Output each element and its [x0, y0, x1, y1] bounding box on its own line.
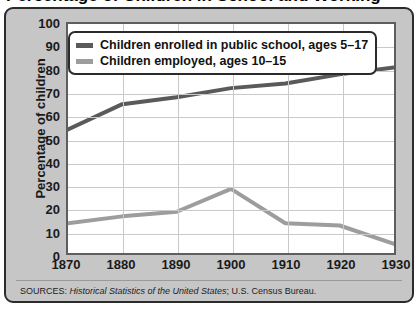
y-axis-tick: 70	[28, 87, 60, 100]
y-axis-tick: 10	[28, 227, 60, 240]
y-axis-tick: 100	[28, 17, 60, 30]
gridline-horizontal	[68, 234, 394, 235]
legend-label: Children enrolled in public school, ages…	[100, 39, 368, 52]
y-axis-tick: 20	[28, 203, 60, 216]
source-divider	[16, 280, 402, 281]
legend-item-1: Children enrolled in public school, ages…	[76, 37, 368, 53]
source-prefix: SOURCES:	[20, 286, 67, 296]
series-line-1	[68, 68, 394, 130]
gridline-horizontal	[68, 117, 394, 118]
y-axis-tick: 60	[28, 110, 60, 123]
y-axis-tick: 90	[28, 40, 60, 53]
x-axis-tick-labels: 1870188018901900191019201930	[66, 258, 396, 276]
gridline-horizontal	[68, 210, 394, 211]
x-axis-tick: 1910	[256, 258, 316, 272]
y-axis-tick: 40	[28, 157, 60, 170]
source-title: Historical Statistics of the United Stat…	[70, 286, 227, 296]
legend-item-2: Children employed, ages 10–15	[76, 53, 368, 69]
y-axis-tick-labels: 0102030405060708090100	[28, 22, 60, 255]
chart-title-text: Percentage of Children in School and Wor…	[6, 0, 381, 4]
y-axis-tick: 30	[28, 180, 60, 193]
chart-frame: Percentage of children 01020304050607080…	[4, 7, 414, 303]
chart-legend: Children enrolled in public school, ages…	[68, 31, 377, 75]
legend-swatch-icon	[76, 59, 93, 64]
chart-figure: Percentage of Children in School and Wor…	[0, 0, 420, 313]
series-line-2	[68, 189, 394, 244]
gridline-horizontal	[68, 164, 394, 165]
chart-title-cutoff: Percentage of Children in School and Wor…	[0, 0, 420, 6]
gridline-horizontal	[68, 187, 394, 188]
x-axis-tick: 1890	[146, 258, 206, 272]
gridline-horizontal	[68, 141, 394, 142]
legend-swatch-icon	[76, 43, 93, 48]
x-axis-tick: 1870	[36, 258, 96, 272]
gridline-horizontal	[68, 94, 394, 95]
source-note: SOURCES: Historical Statistics of the Un…	[20, 286, 316, 297]
x-axis-tick: 1900	[201, 258, 261, 272]
y-axis-tick: 50	[28, 134, 60, 147]
y-axis-tick: 80	[28, 64, 60, 77]
x-axis-tick: 1880	[91, 258, 151, 272]
x-axis-tick: 1920	[311, 258, 371, 272]
legend-label: Children employed, ages 10–15	[100, 55, 286, 68]
source-suffix: ; U.S. Census Bureau.	[227, 286, 317, 296]
x-axis-tick: 1930	[366, 258, 420, 272]
